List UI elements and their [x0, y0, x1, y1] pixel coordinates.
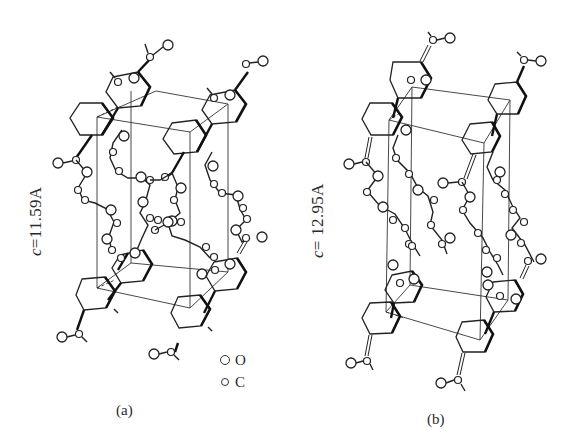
ring-group-b-bottom-left	[346, 271, 422, 370]
axis-label-b: c= 12.95A	[308, 183, 328, 258]
chain-b-mid-left	[388, 125, 455, 270]
axis-value-a: =11.59A	[26, 187, 45, 249]
ring-group-b-top-left	[362, 32, 455, 135]
chain-a-mid-left	[110, 130, 159, 252]
axis-value-b: = 12.95A	[308, 183, 327, 250]
large-circle-icon	[220, 355, 230, 365]
legend-item-carbon: C	[220, 371, 246, 393]
structure-drawing	[0, 0, 567, 440]
axis-label-a: c=11.59A	[26, 187, 46, 256]
ring-group-a-top-right	[163, 56, 268, 154]
chain-b-left	[344, 137, 420, 256]
ring-group-a-bottom-left	[57, 248, 152, 342]
small-circle-icon	[221, 378, 229, 386]
panel-a-structure	[53, 40, 268, 360]
legend-label-carbon: C	[235, 371, 245, 393]
chain-b-mid-right	[438, 154, 503, 277]
panel-b-structure	[344, 32, 546, 391]
legend-label-oxygen: O	[235, 349, 246, 371]
crystal-structure-figure: c=11.59A c= 12.95A O C (a) (b)	[0, 0, 567, 440]
legend-item-oxygen: O	[220, 349, 246, 371]
legend: O C	[220, 349, 246, 393]
ring-group-b-top-right	[462, 52, 546, 154]
chain-a-mid-right	[162, 152, 218, 279]
axis-symbol-b: c	[308, 250, 327, 258]
ring-group-b-bottom-right	[436, 280, 523, 391]
panel-label-a: (a)	[116, 402, 133, 419]
axis-symbol-a: c	[26, 248, 45, 256]
chain-a-right	[205, 152, 267, 254]
panel-label-b: (b)	[427, 411, 445, 428]
